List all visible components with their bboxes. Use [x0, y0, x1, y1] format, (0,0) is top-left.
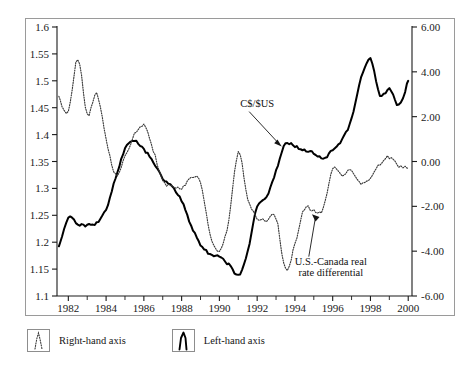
right-axis-tick-label: 0.00 [421, 156, 441, 168]
left-axis-tick-label: 1.6 [35, 21, 49, 33]
left-axis-tick-label: 1.45 [30, 102, 50, 114]
annotation-arrow-cad-usd [249, 112, 278, 143]
left-axis-tick-label: 1.55 [30, 48, 50, 60]
annotation-label-cad-usd: C$/$US [240, 98, 274, 109]
solid-line-icon [173, 330, 194, 351]
legend-item-right-hand-axis[interactable]: Right-hand axis [27, 329, 126, 352]
annotation-arrow-rate-differential [309, 218, 316, 257]
left-axis-tick-label: 1.25 [30, 209, 50, 221]
left-axis-tick-label: 1.5 [35, 75, 49, 87]
tick-labels-layer: 1.11.151.21.251.31.351.41.451.51.551.6-6… [30, 21, 445, 314]
legend-item-left-hand-axis[interactable]: Left-hand axis [172, 329, 265, 352]
legend-label-left-hand-axis: Left-hand axis [204, 335, 265, 346]
x-axis-tick-label: 1982 [57, 302, 79, 314]
annotation-label-rate-differential-line1: U.S.-Canada real [295, 256, 367, 267]
x-axis-tick-label: 1998 [359, 302, 382, 314]
series-line-cad-usd [59, 58, 408, 275]
x-axis-tick-label: 1992 [246, 302, 268, 314]
annotation-arrowhead-rate-differential [312, 214, 320, 221]
left-axis-tick-label: 1.3 [35, 182, 49, 194]
left-axis-tick-label: 1.1 [35, 290, 49, 302]
annotations-layer: C$/$USU.S.-Canada realrate differential [240, 98, 367, 278]
left-axis-tick-label: 1.15 [30, 263, 50, 275]
right-axis-tick-label: -4.00 [421, 245, 444, 257]
right-axis-tick-label: 4.00 [421, 66, 441, 78]
left-axis-tick-label: 1.2 [35, 236, 49, 248]
series-layer [59, 58, 408, 275]
legend-swatch-dotted [27, 329, 50, 352]
right-axis-tick-label: 6.00 [421, 21, 441, 33]
annotation-label-rate-differential-line2: rate differential [298, 267, 363, 278]
x-axis-tick-label: 1988 [171, 302, 194, 314]
legend-label-right-hand-axis: Right-hand axis [59, 335, 126, 346]
right-axis-tick-label: 2.00 [421, 111, 441, 123]
series-line-rate-differential [59, 60, 408, 271]
x-axis-tick-label: 1984 [95, 302, 118, 314]
chart-canvas: 1.11.151.21.251.31.351.41.451.51.551.6-6… [0, 0, 473, 365]
legend-swatch-solid [172, 329, 195, 352]
right-axis-tick-label: -2.00 [421, 200, 444, 212]
x-axis-tick-label: 1986 [133, 302, 156, 314]
x-axis-tick-label: 1996 [322, 302, 345, 314]
left-axis-tick-label: 1.35 [30, 156, 50, 168]
x-axis-tick-label: 1990 [208, 302, 231, 314]
right-axis-tick-label: -6.00 [421, 290, 444, 302]
x-axis-tick-label: 2000 [397, 302, 420, 314]
left-axis-tick-label: 1.4 [35, 129, 49, 141]
figure-root: 1.11.151.21.251.31.351.41.451.51.551.6-6… [0, 0, 473, 365]
x-axis-tick-label: 1994 [284, 302, 307, 314]
legend: Right-hand axis Left-hand axis [27, 329, 265, 352]
dotted-line-icon [28, 330, 49, 351]
